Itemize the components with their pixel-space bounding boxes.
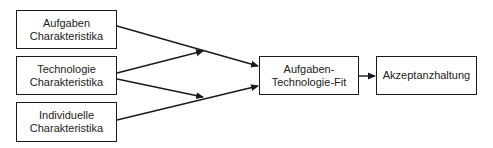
node-label-line1: Akzeptanzhaltung [383, 69, 470, 82]
node-label-line1: Technologie [30, 63, 103, 76]
node-task-characteristics: Aufgaben Charakteristika [16, 10, 117, 49]
edge-tech-to-indiv-edge [117, 79, 203, 97]
node-label-line1: Aufgaben [30, 17, 103, 30]
node-label-line2: Technologie-Fit [272, 76, 347, 89]
node-task-technology-fit: Aufgaben- Technologie-Fit [259, 56, 359, 95]
node-label-line1: Aufgaben- [272, 63, 347, 76]
edge-indiv-to-fit [117, 86, 258, 120]
node-individual-characteristics: Individuelle Charakteristika [16, 102, 117, 142]
node-acceptance-attitude: Akzeptanzhaltung [376, 56, 477, 95]
node-label-line2: Charakteristika [30, 122, 103, 135]
node-technology-characteristics: Technologie Charakteristika [16, 56, 117, 95]
node-label-line2: Charakteristika [30, 30, 103, 43]
node-label-line2: Charakteristika [30, 76, 103, 89]
node-label-line1: Individuelle [30, 109, 103, 122]
edge-task-to-fit [117, 26, 258, 66]
edge-tech-to-task-edge [117, 51, 203, 73]
